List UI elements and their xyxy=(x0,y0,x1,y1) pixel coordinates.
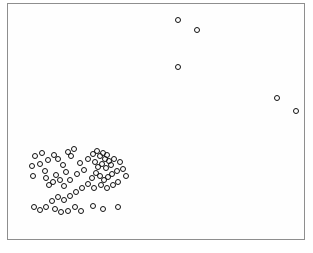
scatter-point xyxy=(30,173,36,179)
scatter-point xyxy=(55,194,61,200)
scatter-point xyxy=(29,163,35,169)
scatter-point xyxy=(61,183,67,189)
scatter-point xyxy=(175,64,181,70)
scatter-point xyxy=(74,171,80,177)
scatter-point xyxy=(89,175,95,181)
scatter-point xyxy=(63,169,69,175)
scatter-point xyxy=(274,95,280,101)
scatter-point xyxy=(67,177,73,183)
scatter-point xyxy=(71,146,77,152)
scatter-point xyxy=(42,168,48,174)
scatter-point xyxy=(98,182,104,188)
scatter-point xyxy=(104,185,110,191)
plot-frame-border xyxy=(7,3,305,240)
scatter-point xyxy=(49,198,55,204)
scatter-point xyxy=(100,206,106,212)
scatter-point xyxy=(39,150,45,156)
scatter-point xyxy=(57,177,63,183)
scatter-point xyxy=(92,159,98,165)
scatter-point xyxy=(53,172,59,178)
scatter-point xyxy=(72,204,78,210)
scatter-point xyxy=(37,161,43,167)
scatter-point xyxy=(85,156,91,162)
scatter-point xyxy=(37,207,43,213)
scatter-point xyxy=(108,162,114,168)
scatter-point xyxy=(46,182,52,188)
scatter-point xyxy=(115,204,121,210)
scatter-point xyxy=(73,189,79,195)
scatter-point xyxy=(67,193,73,199)
scatter-point xyxy=(175,17,181,23)
scatter-point xyxy=(31,204,37,210)
scatter-point xyxy=(77,160,83,166)
scatter-point xyxy=(120,166,126,172)
scatter-point xyxy=(43,204,49,210)
scatter-point xyxy=(79,185,85,191)
scatter-point xyxy=(91,185,97,191)
scatter-point xyxy=(65,208,71,214)
scatter-point xyxy=(32,153,38,159)
plot-data-area xyxy=(8,4,304,239)
scatter-point xyxy=(117,159,123,165)
scatter-point xyxy=(81,167,87,173)
scatter-point xyxy=(58,209,64,215)
scatter-point xyxy=(55,156,61,162)
scatter-point xyxy=(85,181,91,187)
scatter-point xyxy=(110,182,116,188)
scatter-point xyxy=(194,27,200,33)
scatter-point xyxy=(43,175,49,181)
scatter-point xyxy=(61,197,67,203)
scatter-point xyxy=(293,108,299,114)
scatter-point xyxy=(123,173,129,179)
scatter-point xyxy=(68,153,74,159)
scatter-point xyxy=(60,162,66,168)
scatter-point xyxy=(78,208,84,214)
scatter-plot-figure xyxy=(0,0,313,253)
scatter-point xyxy=(90,203,96,209)
scatter-point xyxy=(45,157,51,163)
